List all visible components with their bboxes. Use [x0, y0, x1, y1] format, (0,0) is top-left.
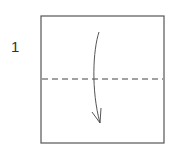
arrowhead-icon: [92, 108, 101, 123]
fold-arrow-icon: [94, 32, 100, 123]
fold-diagram: [0, 0, 174, 153]
